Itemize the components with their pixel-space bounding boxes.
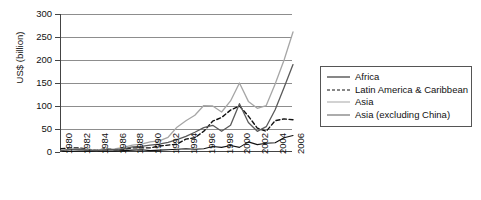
dashed-line-icon bbox=[327, 85, 350, 95]
solid-line-icon bbox=[327, 97, 350, 107]
x-axis-tick-label: 1992 bbox=[171, 133, 181, 154]
x-axis-tick-label: 2006 bbox=[296, 133, 306, 154]
legend-item: Africa bbox=[327, 71, 466, 84]
y-axis-tick-label: 200 bbox=[36, 55, 52, 65]
x-axis-tick-label: 2000 bbox=[242, 133, 252, 154]
legend-item-label: Asia (excluding China) bbox=[355, 110, 450, 120]
chart-screenshot: US$ (billion) 050100150200250300 1980198… bbox=[0, 0, 481, 200]
y-axis-tick-label: 250 bbox=[36, 32, 52, 42]
x-axis-tick-label: 1994 bbox=[189, 133, 199, 154]
x-axis-tick-labels: 1980198219841986198819901992199419961998… bbox=[60, 154, 292, 200]
x-axis-tick-label: 1988 bbox=[135, 133, 145, 154]
solid-line-icon bbox=[327, 72, 350, 82]
data-series-layer bbox=[61, 14, 293, 152]
x-axis-tick-label: 1990 bbox=[153, 133, 163, 154]
legend-item: Latin America & Caribbean bbox=[327, 84, 466, 97]
x-axis-tick-label: 1998 bbox=[225, 133, 235, 154]
chart-legend: AfricaLatin America & CaribbeanAsiaAsia … bbox=[320, 66, 472, 127]
x-axis-tick-label: 1984 bbox=[100, 133, 110, 154]
y-axis-tick-label: 100 bbox=[36, 101, 52, 111]
legend-item-label: Africa bbox=[355, 72, 379, 82]
y-axis-tick-label: 50 bbox=[41, 124, 52, 134]
y-axis-tick-labels: 050100150200250300 bbox=[0, 0, 60, 152]
legend-item-label: Latin America & Caribbean bbox=[355, 85, 468, 95]
x-axis-tick-label: 2002 bbox=[260, 133, 270, 154]
line-chart-figure: US$ (billion) 050100150200250300 1980198… bbox=[0, 0, 310, 200]
y-axis-tick-label: 0 bbox=[47, 147, 52, 157]
plot-area bbox=[60, 14, 292, 152]
y-axis-tick-label: 300 bbox=[36, 9, 52, 18]
x-axis-tick-label: 1982 bbox=[82, 133, 92, 154]
y-axis-tick-label: 150 bbox=[36, 78, 52, 88]
x-axis-tick-label: 2004 bbox=[278, 133, 288, 154]
x-axis-tick-label: 1980 bbox=[64, 133, 74, 154]
legend-item: Asia (excluding China) bbox=[327, 109, 466, 122]
legend-item: Asia bbox=[327, 96, 466, 109]
x-axis-tick-label: 1986 bbox=[118, 133, 128, 154]
y-axis-tick-mark bbox=[55, 152, 60, 153]
x-axis-tick-label: 1996 bbox=[207, 133, 217, 154]
solid-line-icon bbox=[327, 110, 350, 120]
legend-item-label: Asia bbox=[355, 97, 373, 107]
